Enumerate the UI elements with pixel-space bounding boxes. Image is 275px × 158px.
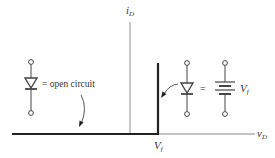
curved-arrow-on-icon [161,84,178,98]
diode-triangle-icon [181,83,193,93]
diode-on-symbol [181,61,193,117]
terminal-top [223,61,228,66]
equals-sign: = [200,83,206,94]
curved-arrow-off-icon [79,95,85,127]
terminal-bottom [185,112,190,117]
threshold-label: Vf [154,139,164,153]
iv-curve [12,63,158,134]
terminal-top [185,61,190,66]
battery-label: Vf [240,82,250,96]
x-axis-label: vD [257,127,267,141]
battery-symbol [215,61,235,117]
terminal-top [29,60,34,65]
open-circuit-label: = open circuit [42,79,95,89]
terminal-bottom [29,111,34,116]
y-axis-label: iD [126,4,134,18]
diode-triangle-icon [25,78,37,88]
diode-off-symbol [25,60,37,116]
diode-iv-diagram: iD vD Vf = open circuit = [0,0,275,158]
terminal-bottom [223,112,228,117]
